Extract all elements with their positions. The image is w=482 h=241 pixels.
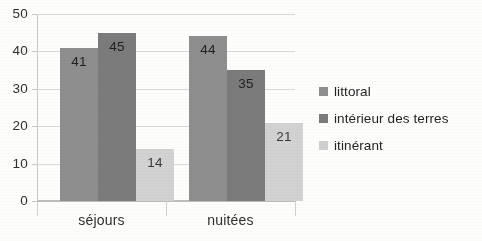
gridline-50 [37, 14, 295, 15]
bar-value-label: 44 [189, 42, 227, 57]
bar-nuitees-interieur-des-terres: 35 [227, 70, 265, 201]
bar-sejours-littoral: 41 [60, 48, 98, 201]
bar-sejours-itinerant: 14 [136, 149, 174, 201]
legend-item-littoral: littoral [319, 78, 479, 105]
legend-item-interieur-des-terres: intérieur des terres [319, 105, 479, 132]
plot-area: 41 45 14 44 35 21 [37, 14, 295, 201]
bar-value-label: 45 [98, 39, 136, 54]
bar-chart: 50 40 30 20 10 0 41 45 14 44 35 [0, 0, 482, 241]
legend-label: intérieur des terres [334, 111, 449, 126]
bar-nuitees-itinerant: 21 [265, 123, 303, 202]
legend: littoral intérieur des terres itinérant [319, 78, 479, 159]
bar-value-label: 41 [60, 54, 98, 69]
bar-sejours-interieur-des-terres: 45 [98, 33, 136, 201]
x-tick-label-nuitees: nuitées [166, 212, 295, 228]
legend-swatch-icon [319, 87, 328, 96]
y-tick-label-30: 30 [2, 81, 28, 96]
legend-label: littoral [334, 84, 371, 99]
bar-value-label: 14 [136, 155, 174, 170]
bar-nuitees-littoral: 44 [189, 36, 227, 201]
legend-swatch-icon [319, 141, 328, 150]
y-tick-label-10: 10 [2, 156, 28, 171]
bar-value-label: 35 [227, 76, 265, 91]
bar-value-label: 21 [265, 129, 303, 144]
y-tick-label-20: 20 [2, 118, 28, 133]
y-tick-label-40: 40 [2, 43, 28, 58]
legend-label: itinérant [334, 138, 383, 153]
legend-item-itinerant: itinérant [319, 132, 479, 159]
y-tick-label-0: 0 [2, 193, 28, 208]
legend-swatch-icon [319, 114, 328, 123]
x-tick-label-sejours: séjours [37, 212, 166, 228]
y-tick-label-50: 50 [2, 6, 28, 21]
x-axis-separator [295, 201, 296, 216]
